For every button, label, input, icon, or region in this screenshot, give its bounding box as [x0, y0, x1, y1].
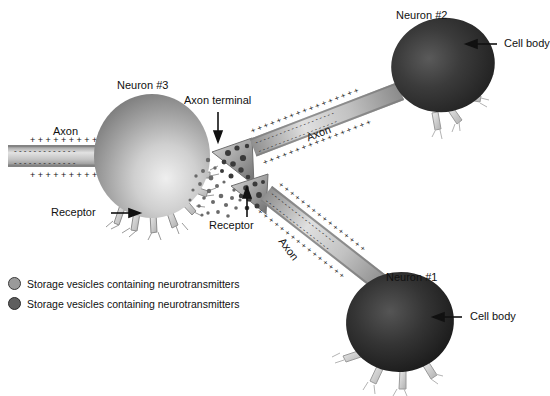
legend-item-0: Storage vesicles containing neurotransmi… — [8, 277, 239, 290]
legend-item-1: Storage vesicles containing neurotransmi… — [8, 297, 239, 310]
label-cell-body-bottom: Cell body — [470, 311, 516, 322]
label-receptor-left: Receptor — [51, 207, 96, 218]
label-neuron-3: Neuron #3 — [117, 80, 168, 91]
axon-terminal-upper — [212, 138, 254, 185]
arrow-axon-terminal — [214, 112, 222, 142]
legend-label-0: Storage vesicles containing neurotransmi… — [27, 278, 239, 290]
svg-text:- - - - - - - - - - - - -: - - - - - - - - - - - - - — [14, 146, 76, 155]
legend-swatch-light-vesicle — [8, 277, 21, 290]
svg-text:- - - - - - - - - - - - -: - - - - - - - - - - - - - — [14, 158, 76, 167]
neuron-3-cell-body — [94, 94, 210, 218]
neuron-2-cell-body — [382, 8, 503, 122]
label-receptor-center: Receptor — [209, 220, 254, 231]
svg-text:+ + + + + + + + + +: + + + + + + + + + + — [30, 170, 105, 180]
label-axon-left: Axon — [53, 126, 78, 137]
label-neuron-2: Neuron #2 — [396, 10, 447, 21]
legend-swatch-dark-vesicle — [8, 297, 21, 310]
label-neuron-1: Neuron #1 — [386, 272, 437, 283]
legend-label-1: Storage vesicles containing neurotransmi… — [27, 298, 239, 310]
label-cell-body-top: Cell body — [504, 38, 550, 49]
label-axon-terminal: Axon terminal — [184, 95, 251, 106]
axon-upper-fiber: - - - - - - - - - - - - - - - - - - - - … — [246, 72, 409, 169]
